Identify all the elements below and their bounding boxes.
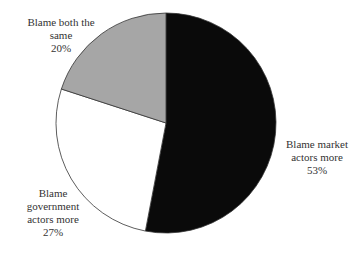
label-market-line1: Blame market	[282, 138, 352, 151]
label-market: Blame market actors more 53%	[282, 138, 352, 177]
label-market-pct: 53%	[282, 164, 352, 177]
label-market-line2: actors more	[282, 151, 352, 164]
label-both-pct: 20%	[16, 42, 106, 55]
label-government-pct: 27%	[18, 226, 88, 239]
label-government-line2: government	[18, 200, 88, 213]
label-both-line2: same	[16, 29, 106, 42]
label-both: Blame both the same 20%	[16, 16, 106, 55]
label-government: Blame government actors more 27%	[18, 187, 88, 239]
label-both-line1: Blame both the	[16, 16, 106, 29]
label-government-line3: actors more	[18, 213, 88, 226]
label-government-line1: Blame	[18, 187, 88, 200]
